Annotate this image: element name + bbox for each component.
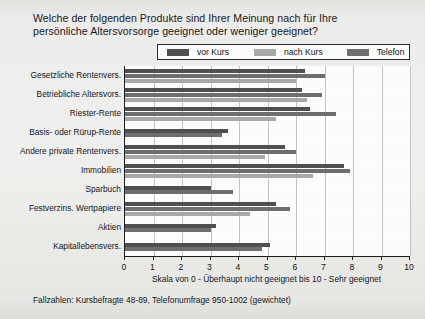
- x-tick: [381, 256, 382, 260]
- x-tick-label: 4: [236, 262, 241, 272]
- bar-group: Aktien: [125, 218, 410, 237]
- x-tick-label: 3: [207, 262, 212, 272]
- category-label: Sparbuch: [85, 185, 121, 194]
- bar: [125, 112, 336, 116]
- bar: [125, 207, 290, 211]
- bar-group: Kapitallebensvers.: [125, 237, 410, 256]
- bar: [125, 169, 350, 173]
- bar-group: Festverzins. Wertpapiere: [125, 199, 410, 218]
- category-label: Andere private Rentenvers.: [20, 147, 121, 156]
- x-tick: [238, 256, 239, 260]
- legend-item-telefon: Telefon: [347, 47, 405, 57]
- x-tick-label: 5: [264, 262, 269, 272]
- x-tick: [153, 256, 154, 260]
- category-label: Aktien: [98, 223, 121, 232]
- category-label: Kapitallebensvers.: [53, 242, 121, 251]
- bar: [125, 174, 313, 178]
- x-tick: [210, 256, 211, 260]
- bar: [125, 69, 305, 73]
- bar: [125, 212, 250, 216]
- legend-item-vor-kurs: vor Kurs: [167, 47, 229, 57]
- x-tick-label: 6: [293, 262, 298, 272]
- bar-group: Sparbuch: [125, 180, 410, 199]
- legend-label: Telefon: [377, 47, 405, 57]
- bar: [125, 133, 222, 137]
- legend-swatch: [347, 49, 369, 56]
- bar: [125, 145, 285, 149]
- bar: [125, 129, 228, 133]
- legend-item-nach-kurs: nach Kurs: [254, 47, 323, 57]
- x-axis: 012345678910: [124, 256, 409, 257]
- category-label: Gesetzliche Rentenvers.: [31, 71, 121, 80]
- category-label: Betriebliche Altersvors.: [37, 90, 121, 99]
- bar: [125, 117, 276, 121]
- bar-group: Riester-Rente: [125, 104, 410, 123]
- bar: [125, 186, 211, 190]
- x-tick: [124, 256, 125, 260]
- bar: [125, 98, 307, 102]
- x-tick-label: 8: [350, 262, 355, 272]
- bar-group: Gesetzliche Rentenvers.: [125, 66, 410, 85]
- chart-title-line2: persönliche Altersvorsorge geeignet oder…: [33, 25, 405, 38]
- bar-group: Basis- oder Rürup-Rente: [125, 123, 410, 142]
- bar: [125, 247, 262, 251]
- x-tick: [352, 256, 353, 260]
- x-tick: [324, 256, 325, 260]
- x-tick-label: 9: [378, 262, 383, 272]
- x-tick-label: 7: [321, 262, 326, 272]
- category-label: Immobilien: [81, 166, 121, 175]
- legend-swatch: [167, 49, 189, 56]
- chart-title-line1: Welche der folgenden Produkte sind Ihrer…: [33, 12, 337, 24]
- bar: [125, 79, 296, 83]
- plot-area: Gesetzliche Rentenvers.Betriebliche Alte…: [124, 66, 410, 256]
- bar: [125, 93, 322, 97]
- bar: [125, 107, 310, 111]
- x-tick-label: 1: [150, 262, 155, 272]
- legend-label: nach Kurs: [284, 47, 323, 57]
- bar: [125, 190, 233, 194]
- x-tick: [181, 256, 182, 260]
- bar: [125, 88, 302, 92]
- bar: [125, 228, 211, 232]
- bar-group: Betriebliche Altersvors.: [125, 85, 410, 104]
- x-tick-label: 0: [122, 262, 127, 272]
- category-label: Riester-Rente: [70, 109, 121, 118]
- bar-groups: Gesetzliche Rentenvers.Betriebliche Alte…: [125, 66, 410, 256]
- legend-swatch: [254, 49, 276, 56]
- bar: [125, 224, 216, 228]
- category-label: Basis- oder Rürup-Rente: [29, 128, 121, 137]
- bar-group: Andere private Rentenvers.: [125, 142, 410, 161]
- bar-group: Immobilien: [125, 161, 410, 180]
- x-tick: [409, 256, 410, 260]
- category-label: Festverzins. Wertpapiere: [29, 204, 121, 213]
- bar: [125, 202, 276, 206]
- bar: [125, 74, 325, 78]
- chart-title: Welche der folgenden Produkte sind Ihrer…: [33, 12, 405, 38]
- bar: [125, 150, 296, 154]
- footnote: Fallzahlen: Kursbefragte 48-89, Telefonu…: [33, 295, 291, 305]
- x-tick-label: 10: [404, 262, 414, 272]
- bar: [125, 243, 270, 247]
- x-tick: [267, 256, 268, 260]
- x-axis-title: Skala von 0 - Überhaupt nicht geeignet b…: [124, 274, 409, 284]
- legend-label: vor Kurs: [197, 47, 229, 57]
- chart-legend: vor Kursnach KursTelefon: [157, 44, 410, 60]
- bar: [125, 164, 344, 168]
- x-tick: [295, 256, 296, 260]
- x-tick-label: 2: [179, 262, 184, 272]
- bar: [125, 155, 265, 159]
